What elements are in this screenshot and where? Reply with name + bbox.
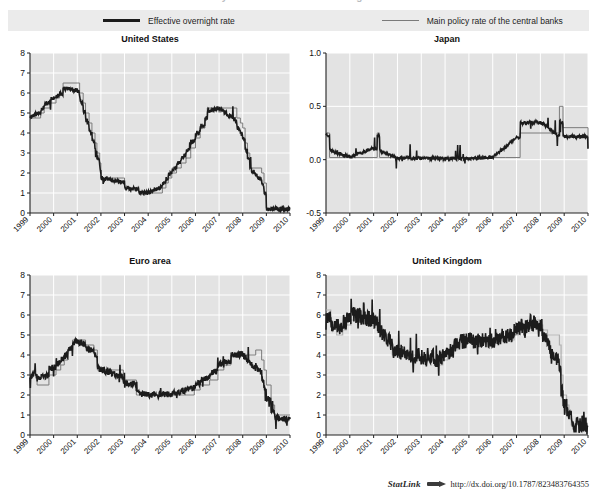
x-axis-tick-label: 1999 [11, 437, 30, 456]
y-axis-tick-label: 2 [316, 390, 321, 400]
svg-text:2000: 2000 [331, 215, 350, 234]
legend-line-swatch-effective [103, 19, 140, 22]
y-axis-tick-label: 3 [20, 148, 25, 158]
y-axis-tick-label: 8 [20, 48, 25, 58]
y-axis-tick-label: 3 [20, 370, 25, 380]
y-axis-tick-label: 7 [20, 290, 25, 300]
x-axis-tick-label: 2005 [153, 215, 172, 234]
x-axis-tick-label: 2007 [498, 437, 517, 456]
svg-text:2009: 2009 [248, 437, 267, 456]
x-axis-tick-label: 2006 [474, 215, 493, 234]
x-axis-tick-label: 2009 [248, 437, 267, 456]
svg-text:2007: 2007 [498, 215, 517, 234]
svg-text:2006: 2006 [177, 437, 196, 456]
x-axis-tick-label: 2001 [355, 215, 374, 234]
svg-text:2008: 2008 [522, 437, 541, 456]
x-axis-tick-label: 1999 [11, 215, 30, 234]
x-axis-tick-label: 2005 [450, 215, 469, 234]
svg-text:2002: 2002 [379, 437, 398, 456]
svg-text:2005: 2005 [153, 215, 172, 234]
y-axis-tick-label: 2 [20, 390, 25, 400]
x-axis-tick-label: 2010 [569, 215, 588, 234]
panel-title-united-states: United States [4, 34, 296, 44]
y-axis-tick-label: 1.0 [309, 48, 321, 58]
y-axis-tick-label: 1 [20, 188, 25, 198]
svg-text:2006: 2006 [177, 215, 196, 234]
x-axis-tick-label: 2004 [130, 215, 149, 234]
svg-text:2005: 2005 [153, 437, 172, 456]
y-axis-tick-label: 7 [20, 68, 25, 78]
x-axis-tick-label: 2009 [248, 215, 267, 234]
legend-entry-main-policy-rate: Main policy rate of the central banks [382, 16, 563, 26]
svg-text:2003: 2003 [403, 437, 422, 456]
x-axis-tick-label: 2000 [331, 215, 350, 234]
svg-text:2010: 2010 [569, 215, 588, 234]
panel-title-united-kingdom: United Kingdom [300, 256, 594, 266]
x-axis-tick-label: 2000 [331, 437, 350, 456]
svg-text:2001: 2001 [355, 437, 374, 456]
svg-text:2008: 2008 [224, 437, 243, 456]
plot-area-euro-area: 0123456781999200020012002200320042005200… [4, 271, 296, 471]
x-axis-tick-label: 2007 [498, 215, 517, 234]
x-axis-tick-label: 2008 [522, 437, 541, 456]
y-axis-tick-label: 8 [316, 270, 321, 280]
x-axis-tick-label: 2003 [403, 215, 422, 234]
svg-text:2007: 2007 [201, 437, 220, 456]
panel-japan: Japan -0.50.00.51.0199920002001200220032… [300, 34, 594, 249]
svg-text:2009: 2009 [546, 437, 565, 456]
x-axis-tick-label: 2007 [201, 437, 220, 456]
x-axis-tick-label: 2003 [403, 437, 422, 456]
x-axis-tick-label: 2005 [450, 437, 469, 456]
x-axis-tick-label: 2002 [379, 215, 398, 234]
x-axis-tick-label: 2001 [355, 437, 374, 456]
panel-title-japan: Japan [300, 34, 594, 44]
figure-legend: Effective overnight rate Main policy rat… [8, 10, 589, 31]
x-axis-tick-label: 2001 [59, 215, 78, 234]
svg-text:2001: 2001 [59, 215, 78, 234]
y-axis-tick-label: 8 [20, 270, 25, 280]
svg-text:2009: 2009 [248, 215, 267, 234]
x-axis-tick-label: 2010 [569, 437, 588, 456]
x-axis-tick-label: 2007 [201, 215, 220, 234]
svg-text:2007: 2007 [201, 215, 220, 234]
y-axis-tick-label: 5 [316, 330, 321, 340]
x-axis-tick-label: 2002 [379, 437, 398, 456]
y-axis-tick-label: 1 [316, 410, 321, 420]
statlink-url[interactable]: http://dx.doi.org/10.1787/823483764355 [451, 479, 589, 489]
y-axis-tick-label: 4 [316, 350, 321, 360]
y-axis-tick-label: 5 [20, 330, 25, 340]
svg-text:2001: 2001 [355, 215, 374, 234]
svg-text:2010: 2010 [271, 437, 290, 456]
svg-text:2010: 2010 [271, 215, 290, 234]
x-axis-tick-label: 2003 [106, 215, 125, 234]
x-axis-tick-label: 2002 [82, 437, 101, 456]
svg-text:2002: 2002 [379, 215, 398, 234]
x-axis-tick-label: 2002 [82, 215, 101, 234]
svg-text:2004: 2004 [130, 215, 149, 234]
svg-text:2008: 2008 [522, 215, 541, 234]
arrow-logo-icon [427, 481, 446, 488]
panel-euro-area: Euro area 012345678199920002001200220032… [4, 256, 296, 471]
x-axis-tick-label: 2008 [224, 437, 243, 456]
svg-text:2002: 2002 [82, 437, 101, 456]
chart-panel-grid: United States 01234567819992000200120022… [0, 34, 597, 470]
svg-text:2005: 2005 [450, 437, 469, 456]
svg-text:2006: 2006 [474, 437, 493, 456]
svg-text:2004: 2004 [427, 215, 446, 234]
legend-entry-effective-overnight-rate: Effective overnight rate [103, 16, 235, 26]
y-axis-tick-label: 3 [316, 370, 321, 380]
x-axis-tick-label: 2005 [153, 437, 172, 456]
x-axis-tick-label: 2008 [522, 215, 541, 234]
y-axis-tick-label: 4 [20, 128, 25, 138]
x-axis-tick-label: 2003 [106, 437, 125, 456]
x-axis-tick-label: 2004 [130, 437, 149, 456]
svg-text:1999: 1999 [307, 437, 326, 456]
panel-title-euro-area: Euro area [4, 256, 296, 266]
svg-text:2009: 2009 [546, 215, 565, 234]
y-axis-tick-label: 1 [20, 410, 25, 420]
x-axis-tick-label: 2001 [59, 437, 78, 456]
statlink[interactable]: StatLink http://dx.doi.org/10.1787/82348… [388, 479, 589, 489]
x-axis-tick-label: 2006 [177, 215, 196, 234]
y-axis-tick-label: 2 [20, 168, 25, 178]
svg-text:2003: 2003 [106, 437, 125, 456]
